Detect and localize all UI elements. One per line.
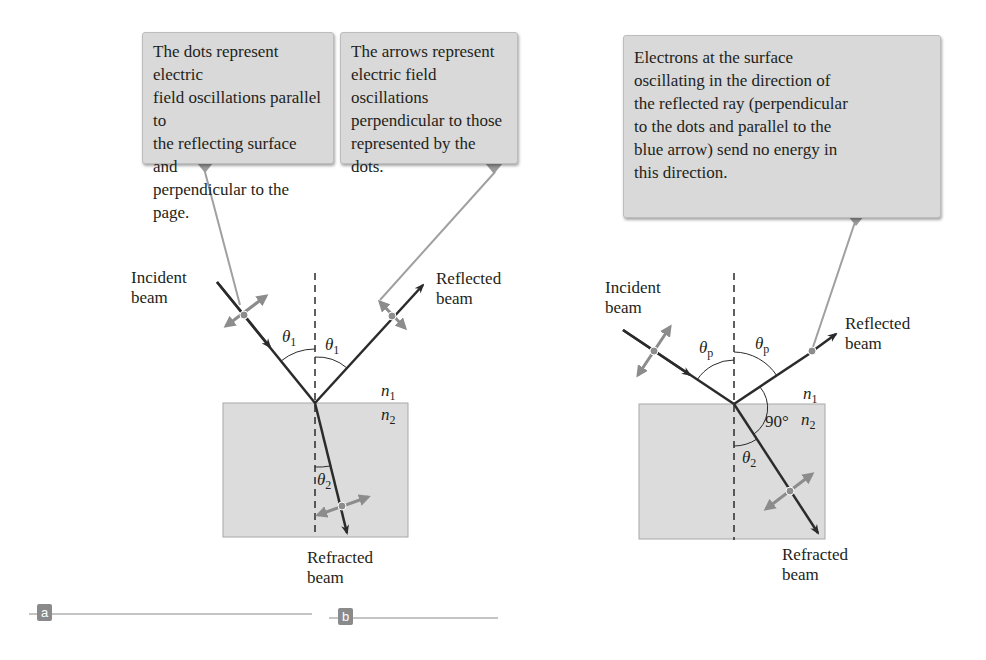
right-angle-label-b: 90° [765, 412, 789, 432]
reflected-beam-label-b: Reflected beam [845, 314, 910, 354]
incident-beam-label-b: Incident beam [605, 278, 661, 318]
polarization-dot-reflected-a [388, 312, 396, 320]
refracted-beam-label-a: Refracted beam [307, 548, 373, 588]
polarization-dot-incident-b [650, 347, 658, 355]
polarization-dot-incident-a [240, 311, 248, 319]
angle-arc-reflected-a [315, 357, 347, 368]
theta-incident-label-b: θp [699, 338, 713, 361]
callout-b: Electrons at the surface oscillating in … [623, 35, 941, 218]
polarization-dot-reflected-b [808, 347, 816, 355]
refracted-beam-label-b: Refracted beam [782, 545, 848, 585]
theta-reflected-label-b: θp [755, 334, 769, 357]
reflected-beam-label-a: Reflected beam [436, 269, 501, 309]
theta-refracted-label-b: θ2 [742, 448, 756, 471]
callout-dots-a-text: The dots represent electric field oscill… [153, 40, 323, 224]
panel-a-tag: a [37, 604, 52, 621]
polarization-dot-refracted-b [786, 487, 794, 495]
medium-block-b [639, 404, 825, 539]
callout-b-text: Electrons at the surface oscillating in … [634, 46, 930, 184]
callout-arrows-a: The arrows represent electric field osci… [340, 32, 518, 164]
angle-arc-incident-b [697, 360, 734, 380]
n1-label-b: n1 [803, 384, 818, 407]
angle-arc-incident-a [281, 349, 315, 361]
panel-b-tag: b [338, 608, 353, 625]
incident-beam-label-a: Incident beam [131, 268, 187, 308]
n1-label-a: n1 [381, 381, 396, 404]
theta-incident-label-a: θ1 [282, 327, 296, 350]
panel-a-divider [29, 613, 312, 615]
reflected-ray-b [734, 352, 812, 404]
n2-label-a: n2 [381, 405, 396, 428]
panel-a-diagram [205, 172, 495, 537]
panel-b-divider [329, 617, 498, 619]
theta-reflected-label-a: θ1 [325, 335, 339, 358]
n2-label-b: n2 [801, 410, 816, 433]
callout-dots-a: The dots represent electric field oscill… [142, 32, 334, 164]
panel-b-diagram [623, 222, 855, 540]
callout-arrows-a-text: The arrows represent electric field osci… [351, 40, 507, 178]
theta-refracted-label-a: θ2 [317, 470, 331, 493]
polarization-dot-refracted-a [338, 502, 346, 510]
